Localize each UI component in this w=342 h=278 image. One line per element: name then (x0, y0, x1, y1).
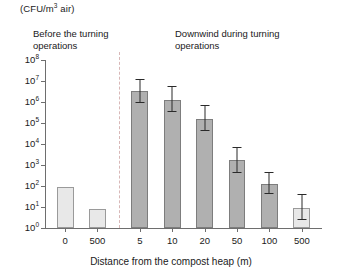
error-bar-cap-lower (135, 102, 144, 103)
bar-before-500m (89, 209, 106, 228)
error-bar-cap-upper (297, 194, 306, 195)
bar-downwind-5m (131, 91, 148, 228)
x-axis-label-downwind-20m: 20 (199, 236, 210, 246)
error-bar-line (237, 147, 238, 173)
x-axis-tick (140, 228, 141, 232)
error-bar-cap-upper (135, 79, 144, 80)
y-axis-line (45, 60, 46, 228)
y-axis-tick-label: 107 (25, 76, 39, 86)
error-bar-cap-upper (265, 172, 274, 173)
y-axis-tick-label: 104 (25, 139, 39, 149)
error-bar-cap-lower (200, 130, 209, 131)
y-axis-tick (41, 186, 45, 187)
error-bar-cap-upper (233, 147, 242, 148)
x-axis-label-before-0m: 0 (62, 236, 67, 246)
y-axis-tick (41, 144, 45, 145)
x-axis-line (45, 228, 322, 229)
error-bar-line (269, 172, 270, 194)
error-bar-line (172, 86, 173, 111)
error-bar-cap-lower (265, 193, 274, 194)
bar-before-0m (57, 187, 74, 228)
y-axis-tick-label: 108 (25, 55, 39, 64)
plot-area: 108107106105104103102101100 050051020501… (45, 60, 322, 228)
group-label-downwind-line2: operations (175, 40, 280, 52)
y-axis-unit-label: (CFU/m3 air) (20, 3, 74, 14)
y-axis-tick (41, 123, 45, 124)
error-bar-line (301, 194, 302, 219)
x-axis-tick (269, 228, 270, 232)
error-bar-line (204, 105, 205, 131)
error-bar-cap-lower (233, 172, 242, 173)
group-label-downwind-line1: Downwind during turning (175, 28, 280, 40)
group-label-before-line1: Before the turning (33, 28, 109, 40)
error-bar-cap-upper (200, 105, 209, 106)
x-axis-tick (172, 228, 173, 232)
x-axis-tick (237, 228, 238, 232)
bar-downwind-10m (164, 100, 181, 228)
y-axis-tick-label: 106 (25, 97, 39, 107)
error-bar-cap-lower (168, 111, 177, 112)
x-axis-label-downwind-50m: 50 (232, 236, 243, 246)
figure-chart: (CFU/m3 air) Before the turning operatio… (0, 0, 342, 278)
group-divider-line (119, 52, 120, 228)
y-axis-tick (41, 102, 45, 103)
x-axis-label-downwind-500m: 500 (294, 236, 310, 246)
group-label-before: Before the turning operations (33, 28, 109, 51)
y-axis-tick-label: 105 (25, 118, 39, 128)
x-axis-tick (97, 228, 98, 232)
error-bar-cap-upper (168, 86, 177, 87)
group-label-before-line2: operations (33, 40, 109, 52)
x-axis-label-downwind-5m: 5 (137, 236, 142, 246)
x-axis-tick (205, 228, 206, 232)
y-axis-tick (41, 207, 45, 208)
x-axis-title: Distance from the compost heap (m) (0, 256, 342, 267)
y-axis-tick (41, 60, 45, 61)
y-axis-tick-label: 102 (25, 181, 39, 191)
y-axis-tick-label: 103 (25, 160, 39, 170)
bar-downwind-20m (196, 119, 213, 228)
y-axis-unit-prefix: (CFU/m (20, 3, 54, 14)
error-bar-line (139, 79, 140, 103)
y-axis-tick (41, 81, 45, 82)
y-axis-tick (41, 228, 45, 229)
x-axis-label-before-500m: 500 (90, 236, 106, 246)
y-axis-tick-label: 101 (25, 202, 39, 212)
group-label-downwind: Downwind during turning operations (175, 28, 280, 51)
error-bar-cap-lower (297, 219, 306, 220)
y-axis-tick-label: 100 (25, 223, 39, 233)
x-axis-label-downwind-10m: 10 (167, 236, 178, 246)
y-axis-tick (41, 165, 45, 166)
x-axis-tick (65, 228, 66, 232)
y-axis-unit-suffix: air) (58, 3, 75, 14)
x-axis-tick (302, 228, 303, 232)
x-axis-label-downwind-100m: 100 (262, 236, 278, 246)
